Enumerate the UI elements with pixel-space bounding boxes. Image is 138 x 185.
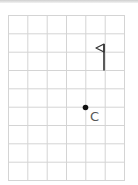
flag-icon xyxy=(96,44,104,71)
grid-diagram xyxy=(0,0,138,185)
point-c-dot xyxy=(83,105,89,111)
grid-lines xyxy=(8,15,125,181)
point-c-label: C xyxy=(90,110,99,123)
